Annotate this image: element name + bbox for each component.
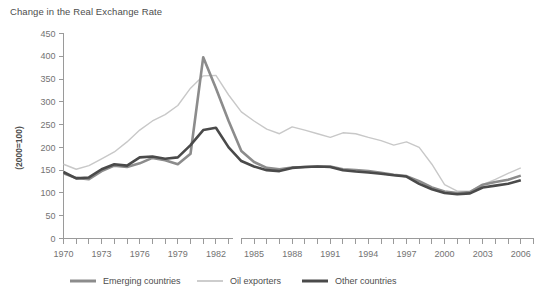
y-tick-label: 350 (40, 74, 55, 84)
y-tick-label: 300 (40, 97, 55, 107)
chart-legend: Emerging countriesOil exportersOther cou… (70, 276, 397, 286)
y-tick-label: 200 (40, 143, 55, 153)
y-tick-label: 150 (40, 165, 55, 175)
x-tick-label: 1982 (206, 249, 226, 259)
x-tick-label: 1976 (130, 249, 150, 259)
line-chart: 050100150200250300350400450 197019731976… (0, 0, 546, 300)
x-tick-label: 2000 (435, 249, 455, 259)
y-tick-label: 250 (40, 120, 55, 130)
y-axis-title: (2000=100) (14, 126, 24, 170)
x-tick-label: 1991 (320, 249, 340, 259)
y-tick-label: 400 (40, 51, 55, 61)
y-tick-label: 50 (45, 211, 55, 221)
y-tick-label: 0 (50, 234, 55, 244)
y-tick-label: 450 (40, 29, 55, 39)
y-tick-label: 100 (40, 188, 55, 198)
x-tick-label: 1970 (53, 249, 73, 259)
series-line-oil-exporters (64, 75, 521, 191)
legend-label-oil-exporters: Oil exporters (230, 276, 282, 286)
series-lines (64, 57, 521, 194)
x-tick-label: 1988 (282, 249, 302, 259)
legend-label-emerging-countries: Emerging countries (103, 276, 181, 286)
x-tick-label: 1985 (244, 249, 264, 259)
series-line-emerging-countries (64, 57, 521, 193)
y-axis-title-text: (2000=100) (14, 126, 24, 170)
x-tick-label: 1997 (396, 249, 416, 259)
y-axis: 050100150200250300350400450 (40, 29, 63, 244)
x-tick-label: 1994 (358, 249, 378, 259)
x-tick-label: 2003 (473, 249, 493, 259)
x-tick-label: 1973 (92, 249, 112, 259)
x-tick-label: 1979 (168, 249, 188, 259)
x-axis: 1970197319761979198219851988199119941997… (53, 239, 533, 259)
chart-container: Change in the Real Exchange Rate 0501001… (0, 0, 546, 300)
x-tick-label: 2006 (511, 249, 531, 259)
legend-label-other-countries: Other countries (335, 276, 397, 286)
